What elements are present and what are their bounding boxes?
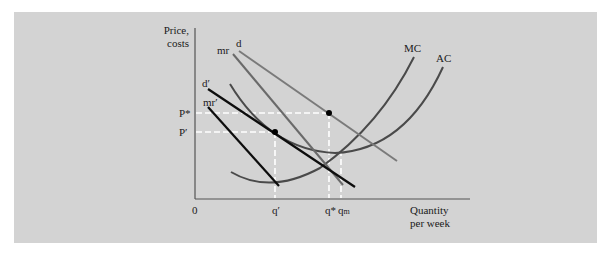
equilibrium-point-star (326, 110, 332, 116)
ac-curve (230, 67, 443, 153)
equilibrium-point-prime (272, 129, 278, 135)
label-mc: MC (404, 42, 421, 54)
label-q-star: q* (325, 204, 336, 216)
economics-diagram: Price, costs mr d d′ mr′ MC AC P* P′ 0 q… (0, 0, 613, 254)
label-d-prime: d′ (202, 77, 210, 89)
d-prime-curve (208, 89, 355, 187)
y-axis-label-2: costs (167, 37, 189, 49)
y-axis-label-1: Price, (164, 24, 190, 36)
x-axis-label-1: Quantity (410, 204, 449, 216)
mr-prime-curve (208, 107, 279, 186)
label-q-prime: q′ (272, 204, 280, 216)
d-curve (239, 51, 397, 161)
label-p-star: P* (179, 107, 191, 119)
label-origin: 0 (192, 204, 198, 216)
label-mr: mr (217, 44, 230, 56)
label-d: d (236, 37, 242, 49)
label-ac: AC (436, 52, 451, 64)
label-q-m: qm (338, 204, 351, 216)
label-mr-prime: mr′ (203, 96, 218, 108)
x-axis-label-2: per week (410, 217, 451, 229)
label-p-prime: P′ (179, 126, 188, 138)
mr-curve (233, 54, 343, 185)
